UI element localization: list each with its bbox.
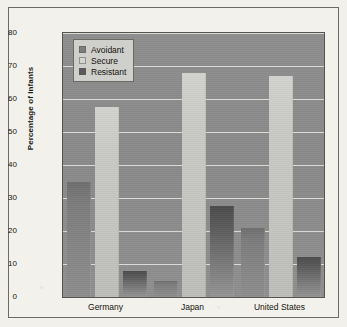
- y-axis-tick: 30: [0, 193, 17, 202]
- legend-swatch-secure: [79, 57, 86, 64]
- y-axis-tick: 0: [0, 292, 17, 301]
- x-axis-tick-united-states: United States: [236, 302, 323, 312]
- figure-frame: Percentage of Infants 01020304050607080 …: [8, 7, 339, 318]
- y-axis-tick: 40: [0, 160, 17, 169]
- legend-item-secure: Secure: [79, 55, 126, 66]
- legend-item-resistant: Resistant: [79, 66, 126, 77]
- figure-page: Percentage of Infants 01020304050607080 …: [0, 0, 347, 327]
- legend-label: Avoidant: [91, 45, 124, 55]
- gridline: [63, 33, 324, 34]
- chart-legend: AvoidantSecureResistant: [73, 39, 134, 82]
- legend-label: Resistant: [91, 67, 126, 77]
- bar-avoidant-united-states: [241, 228, 265, 297]
- y-axis-tick: 70: [0, 61, 17, 70]
- legend-swatch-resistant: [79, 68, 86, 75]
- y-axis-tick: 50: [0, 127, 17, 136]
- y-axis-tick: 10: [0, 259, 17, 268]
- y-axis-label: Percentage of Infants: [26, 54, 35, 164]
- y-axis-tick: 80: [0, 28, 17, 37]
- bar-resistant-germany: [123, 271, 147, 297]
- bar-secure-germany: [95, 107, 119, 297]
- bar-resistant-united-states: [297, 257, 321, 297]
- y-axis-tick: 60: [0, 94, 17, 103]
- bar-secure-united-states: [269, 76, 293, 297]
- bar-avoidant-japan: [154, 281, 178, 298]
- bar-avoidant-germany: [67, 182, 91, 298]
- x-axis-tick-germany: Germany: [62, 302, 149, 312]
- bar-resistant-japan: [210, 206, 234, 297]
- bar-secure-japan: [182, 73, 206, 297]
- legend-label: Secure: [91, 56, 118, 66]
- legend-item-avoidant: Avoidant: [79, 44, 126, 55]
- x-axis-tick-japan: Japan: [149, 302, 236, 312]
- legend-swatch-avoidant: [79, 46, 86, 53]
- plot-area: AvoidantSecureResistant: [62, 32, 325, 298]
- y-axis-tick: 20: [0, 226, 17, 235]
